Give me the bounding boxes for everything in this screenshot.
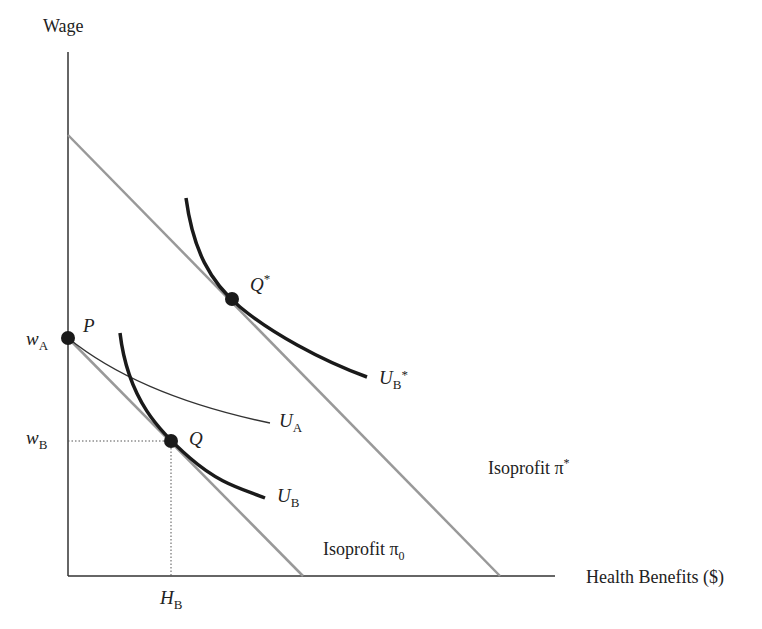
point-Q	[164, 434, 178, 448]
isoprofit-pi0-line	[68, 338, 303, 576]
P-label: P	[82, 315, 95, 336]
isoprofit-pistar-line	[68, 135, 500, 576]
x-axis-label: Health Benefits ($)	[586, 567, 724, 588]
UA-indifference-curve	[68, 338, 270, 423]
UBstar-label: UB*	[379, 367, 408, 392]
wB-label: wB	[26, 427, 48, 452]
isoprofit-pistar-label: Isoprofit π*	[488, 456, 570, 478]
UB-label: UB	[277, 485, 300, 510]
isoprofit-pi0-label: Isoprofit π0	[323, 539, 405, 563]
UB-indifference-curve	[120, 333, 265, 498]
y-axis-label: Wage	[43, 16, 84, 36]
wA-label: wA	[26, 328, 49, 353]
Qstar-label: Q*	[250, 271, 270, 295]
point-P	[61, 331, 75, 345]
UBstar-indifference-curve	[186, 198, 367, 377]
Q-label: Q	[189, 428, 203, 449]
point-Qstar	[225, 292, 239, 306]
UA-label: UA	[279, 410, 303, 435]
HB-label: HB	[159, 587, 183, 612]
compensation-diagram: Wage Health Benefits ($) wA wB HB P Q Q*…	[0, 0, 762, 629]
